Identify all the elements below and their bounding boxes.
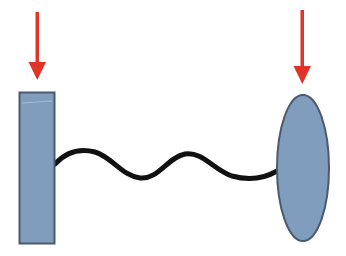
right-body-ellipse [277,95,329,241]
left-block [20,93,55,244]
diagram-canvas [0,0,346,256]
